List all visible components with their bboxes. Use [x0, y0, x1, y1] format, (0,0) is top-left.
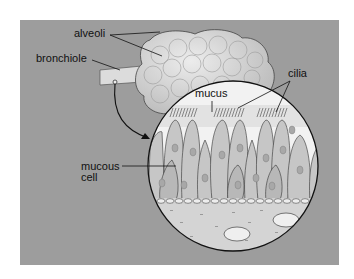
vessel-1 [224, 227, 250, 241]
diagram-art [0, 0, 354, 279]
label-mucus: mucus [195, 88, 227, 99]
label-alveoli: alveoli [74, 28, 105, 39]
label-bronchiole: bronchiole [36, 53, 87, 64]
label-mucous-cell-line2: cell [81, 172, 98, 183]
label-cilia: cilia [288, 68, 307, 79]
